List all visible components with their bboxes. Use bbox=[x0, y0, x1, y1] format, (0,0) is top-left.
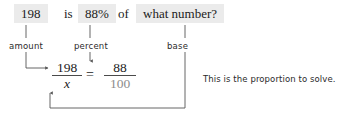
right-denominator: 100 bbox=[104, 76, 136, 91]
fraction-right: 88 100 bbox=[104, 60, 136, 91]
percent-sentence: 198 is 88% of what number? bbox=[0, 3, 349, 23]
word-of: of bbox=[118, 5, 129, 22]
connector-amount-to-numerator bbox=[26, 52, 48, 68]
equals-sign: = bbox=[86, 67, 94, 83]
percent-value: 88% bbox=[78, 4, 116, 23]
word-is: is bbox=[64, 5, 73, 22]
label-amount: amount bbox=[9, 41, 43, 51]
right-numerator: 88 bbox=[104, 60, 136, 75]
label-percent: percent bbox=[74, 41, 108, 51]
proportion-note: This is the proportion to solve. bbox=[203, 74, 336, 84]
fraction-left: 198 x bbox=[52, 60, 82, 91]
base-question: what number? bbox=[136, 4, 224, 23]
proportion-diagram: 198 is 88% of what number? amount percen… bbox=[0, 0, 349, 116]
amount-value: 198 bbox=[14, 4, 48, 23]
left-numerator: 198 bbox=[52, 60, 82, 75]
label-base: base bbox=[167, 41, 188, 51]
left-denominator: x bbox=[52, 76, 82, 91]
